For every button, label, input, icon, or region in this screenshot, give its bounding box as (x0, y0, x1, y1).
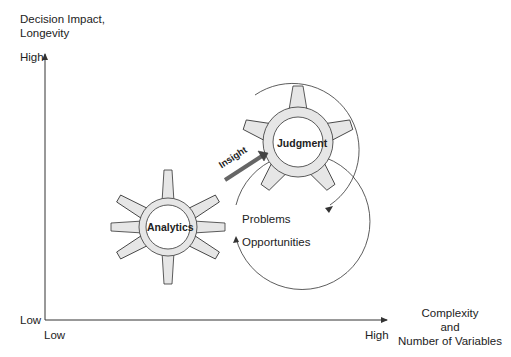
x-axis-high-label: High (365, 328, 389, 342)
judgment-label: Judgment (277, 136, 327, 150)
problems-label: Problems (242, 212, 291, 226)
cycle-arrowhead-icon (233, 236, 239, 243)
y-axis-low-label: Low (20, 313, 41, 327)
analytics-label: Analytics (147, 220, 194, 234)
x-axis-title-line2: and (400, 320, 500, 334)
opportunities-label: Opportunities (242, 235, 310, 249)
cycle-arrowhead-icon (325, 206, 333, 213)
diagram-canvas (0, 0, 511, 357)
y-axis-title-line1: Decision Impact, (20, 12, 105, 26)
x-axis-title-line3: Number of Variables (395, 334, 505, 348)
x-axis-title-line1: Complexity (400, 306, 500, 320)
y-axis-high-label: High (20, 50, 44, 64)
x-axis-low-label: Low (44, 328, 65, 342)
y-axis-title-line2: Longevity (20, 26, 69, 40)
